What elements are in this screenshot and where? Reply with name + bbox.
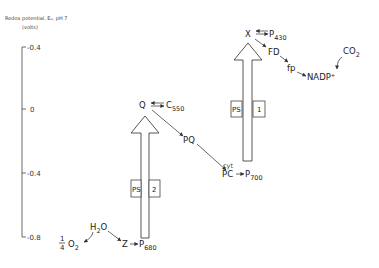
species-o2: O2 [68,239,79,252]
species-p680: P680 [139,239,157,252]
ps1-label: PS [232,106,241,114]
species-z: Z [122,239,128,249]
axis-tick-label: -0.8 [27,234,41,242]
species-x: X [245,29,251,39]
electron-flow-arrow [280,56,288,62]
o2-fraction-denominator: 4 [60,244,65,252]
axis-title: Redox potential, E₀, pH 7 [5,15,67,22]
axis-unit: (volts) [22,24,38,30]
ps1-number: 1 [257,106,261,114]
species-fd: FD [268,47,280,57]
electron-flow-arrow [197,144,226,170]
ps2-label: PS [132,186,141,194]
species-fp: fp [287,63,295,73]
species-pc: PC [222,169,233,179]
species-p700: P700 [245,169,263,182]
z-scheme-diagram: Redox potential, E₀, pH 7 (volts) -0.4 0… [0,0,379,268]
axis-tick-label: -0.4 [27,44,41,52]
co2-arrow [337,57,342,69]
electron-flow-arrow [297,72,306,76]
axis-tick-label: -0.4 [27,170,41,178]
species-c550: C550 [166,100,184,113]
oxygen-evolution-arrow [84,232,93,242]
species-pq: PQ [183,135,195,145]
axis-tick-label: 0 [30,106,34,114]
species-q: Q [139,100,146,110]
o2-fraction-numerator: 1 [60,235,64,243]
electron-flow-arrow [255,39,266,47]
electron-flow-arrow [108,231,121,241]
ps2-arrow [131,116,159,238]
species-co2: CO2 [343,46,360,59]
species-p430: P430 [269,29,287,42]
species-nadp: NADP⁺ [307,72,335,82]
ps2-number: 2 [152,186,156,194]
